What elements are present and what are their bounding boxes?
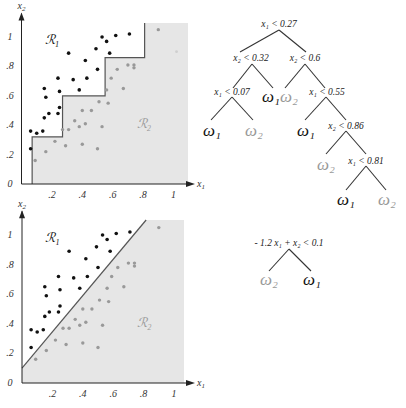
point-omega1	[108, 51, 112, 55]
point-omega1	[84, 59, 88, 63]
point-omega2	[44, 150, 47, 153]
point-omega2	[175, 50, 178, 53]
x-axis-label: x1	[196, 377, 205, 390]
y-tick-label: 0	[8, 178, 13, 189]
point-omega1	[56, 112, 60, 116]
point-omega2	[100, 125, 103, 128]
point-omega2	[96, 346, 99, 349]
point-omega2	[105, 287, 108, 290]
point-omega1	[57, 310, 61, 314]
edge	[346, 166, 366, 190]
y-tick-label: .8	[6, 259, 14, 270]
tree-node: x₂ < 0.6	[289, 53, 321, 63]
point-omega2	[84, 321, 87, 324]
point-omega1	[35, 131, 39, 135]
point-omega1	[41, 328, 45, 332]
x-tick-label: .6	[109, 189, 117, 200]
point-omega2	[67, 128, 70, 131]
decision-tree-oblique: - 1.2 x₁ + x₂ < 0.1 ω₂ ω₁	[254, 238, 323, 289]
point-omega1	[29, 346, 33, 350]
point-omega1	[43, 87, 47, 91]
point-omega2	[81, 109, 84, 112]
point-omega2	[73, 119, 76, 122]
tree-node: x₂ < 0.32	[232, 53, 269, 63]
leaf-omega1: ω₁	[303, 270, 321, 289]
point-omega1	[128, 32, 132, 36]
edge	[326, 131, 346, 154]
y-tick-label: .8	[6, 60, 14, 71]
y-tick-label: 1	[8, 229, 13, 240]
point-omega1	[58, 288, 62, 292]
point-omega2	[127, 261, 130, 264]
point-omega2	[64, 343, 67, 346]
subscript: 2	[22, 203, 26, 211]
point-omega1	[58, 106, 62, 110]
point-omega2	[133, 264, 136, 267]
point-omega2	[81, 341, 84, 344]
point-omega1	[67, 51, 71, 55]
edge	[289, 249, 311, 271]
point-omega1	[114, 34, 118, 38]
point-omega1	[94, 47, 98, 51]
point-omega2	[157, 28, 160, 31]
point-omega2	[122, 285, 125, 288]
y-tick-label: .6	[6, 288, 14, 299]
leaf-omega1: ω₁	[203, 121, 221, 140]
point-omega1	[108, 249, 112, 253]
point-omega1	[58, 90, 62, 94]
point-omega1	[71, 78, 75, 82]
point-omega2	[81, 143, 84, 146]
point-omega2	[34, 358, 37, 361]
point-omega2	[61, 128, 64, 131]
point-omega1	[29, 328, 33, 332]
point-omega2	[33, 159, 36, 162]
point-omega2	[110, 275, 113, 278]
point-omega2	[53, 140, 56, 143]
x-tick-label: .4	[79, 388, 87, 399]
region-label-r2: ℛ₂	[137, 315, 152, 330]
edge	[233, 64, 252, 88]
point-omega1	[43, 116, 47, 120]
edge	[366, 166, 386, 190]
point-omega2	[101, 324, 104, 327]
leaf-omega2: ω₂	[260, 270, 278, 289]
bottom-scatter-plot: x1x2 .2.4.6.810.2.4.6.81 ℛ₁ℛ₂	[6, 198, 205, 399]
point-omega1	[41, 129, 45, 133]
top-scatter-plot: x1x2 .2.4.6.810.2.4.6.81 ℛ₁ℛ₂	[6, 0, 205, 200]
point-omega1	[72, 276, 76, 280]
leaf-omega1: ω₁	[262, 87, 280, 106]
point-omega1	[78, 286, 82, 290]
y-tick-label: .4	[6, 119, 14, 130]
point-omega1	[128, 230, 132, 234]
region-label-r1: ℛ₁	[45, 32, 60, 47]
point-omega2	[132, 63, 135, 66]
point-omega1	[100, 35, 104, 39]
leaf-omega2: ω₂	[245, 121, 263, 140]
x-tick-label: .2	[48, 189, 56, 200]
point-omega2	[61, 327, 64, 330]
point-omega1	[105, 238, 109, 242]
point-omega2	[84, 122, 87, 125]
edge	[279, 30, 306, 52]
edge	[285, 64, 305, 88]
point-omega2	[98, 298, 101, 301]
point-omega2	[107, 300, 110, 303]
subscript: 1	[201, 382, 205, 390]
point-omega2	[54, 338, 57, 341]
x-tick-label: .2	[49, 388, 57, 399]
point-omega2	[133, 261, 136, 264]
point-omega1	[105, 40, 109, 44]
tree-node: x₁ < 0.07	[213, 87, 251, 97]
tree-node: x₁ < 0.81	[347, 156, 383, 166]
edge	[346, 131, 366, 154]
x-axis-arrow-icon	[186, 181, 195, 187]
x-tick-label: .6	[109, 388, 117, 399]
tree-node: - 1.2 x₁ + x₂ < 0.1	[254, 238, 323, 248]
point-omega2	[116, 68, 119, 71]
point-omega1	[67, 249, 71, 253]
point-omega1	[29, 129, 33, 133]
point-omega2	[67, 327, 70, 330]
subscript: 2	[22, 5, 26, 13]
point-omega2	[106, 101, 109, 104]
leaf-omega2: ω₂	[280, 87, 298, 106]
